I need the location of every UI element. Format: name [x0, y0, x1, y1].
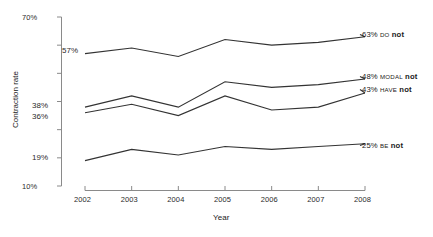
series-lines — [85, 37, 365, 161]
y-axis-title: Contraction rate — [11, 55, 20, 145]
end-label-do: 63% DO not — [362, 30, 404, 39]
start-label-do: 57% — [62, 46, 78, 55]
end-label-do-neg: not — [392, 30, 404, 39]
end-label-be-pct: 25% — [362, 141, 378, 150]
x-tick-label: 2008 — [354, 195, 371, 204]
x-axis-title: Year — [213, 213, 230, 222]
end-label-have-pct: 43% — [362, 85, 378, 94]
series-line-modal-not — [85, 79, 365, 107]
line-chart: Contraction rate 70% 10% 57% 38% 36% 19%… — [0, 0, 433, 237]
series-line-have-not — [85, 93, 365, 116]
x-tick-label: 2005 — [214, 195, 231, 204]
end-label-modal-pct: 48% — [362, 72, 378, 81]
x-axis-ticks — [85, 186, 365, 191]
y-tick-label-top: 70% — [22, 13, 37, 22]
end-label-be-neg: not — [391, 141, 403, 150]
series-line-be-not — [85, 144, 365, 161]
x-tick-label: 2006 — [261, 195, 278, 204]
end-label-have: 43% HAVE not — [362, 85, 412, 94]
series-line-do-not — [85, 37, 365, 57]
start-label-modal: 38% — [32, 101, 48, 110]
end-label-have-aux: HAVE — [380, 86, 397, 93]
end-label-be: 25% BE not — [362, 141, 403, 150]
end-label-do-aux: DO — [380, 31, 390, 38]
x-tick-label: 2007 — [307, 195, 324, 204]
y-tick-label-bottom: 10% — [22, 182, 37, 191]
x-tick-label: 2003 — [121, 195, 138, 204]
end-label-have-neg: not — [399, 85, 411, 94]
start-label-be: 19% — [32, 153, 48, 162]
x-tick-label: 2004 — [167, 195, 184, 204]
end-label-do-pct: 63% — [362, 30, 378, 39]
end-label-modal-neg: not — [405, 72, 417, 81]
end-label-be-aux: BE — [380, 142, 389, 149]
y-axis-ticks — [57, 17, 62, 186]
x-tick-label: 2002 — [74, 195, 91, 204]
start-label-have: 36% — [32, 112, 48, 121]
end-label-modal-aux: MODAL — [380, 73, 403, 80]
end-label-modal: 48% MODAL not — [362, 72, 417, 81]
